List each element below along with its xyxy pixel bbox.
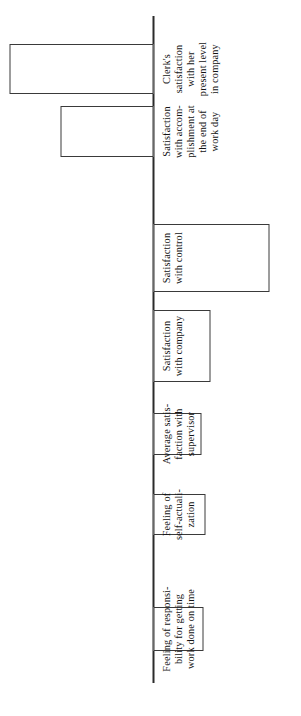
rotated-chart-stage: Feeling of responsi- bility for getting … xyxy=(0,0,301,716)
bar-chart-plot: Feeling of responsi- bility for getting … xyxy=(0,0,301,716)
bar-6 xyxy=(9,44,153,94)
category-label-6: Clerk's satisfaction with her present le… xyxy=(160,0,220,144)
bar-5 xyxy=(60,106,153,157)
